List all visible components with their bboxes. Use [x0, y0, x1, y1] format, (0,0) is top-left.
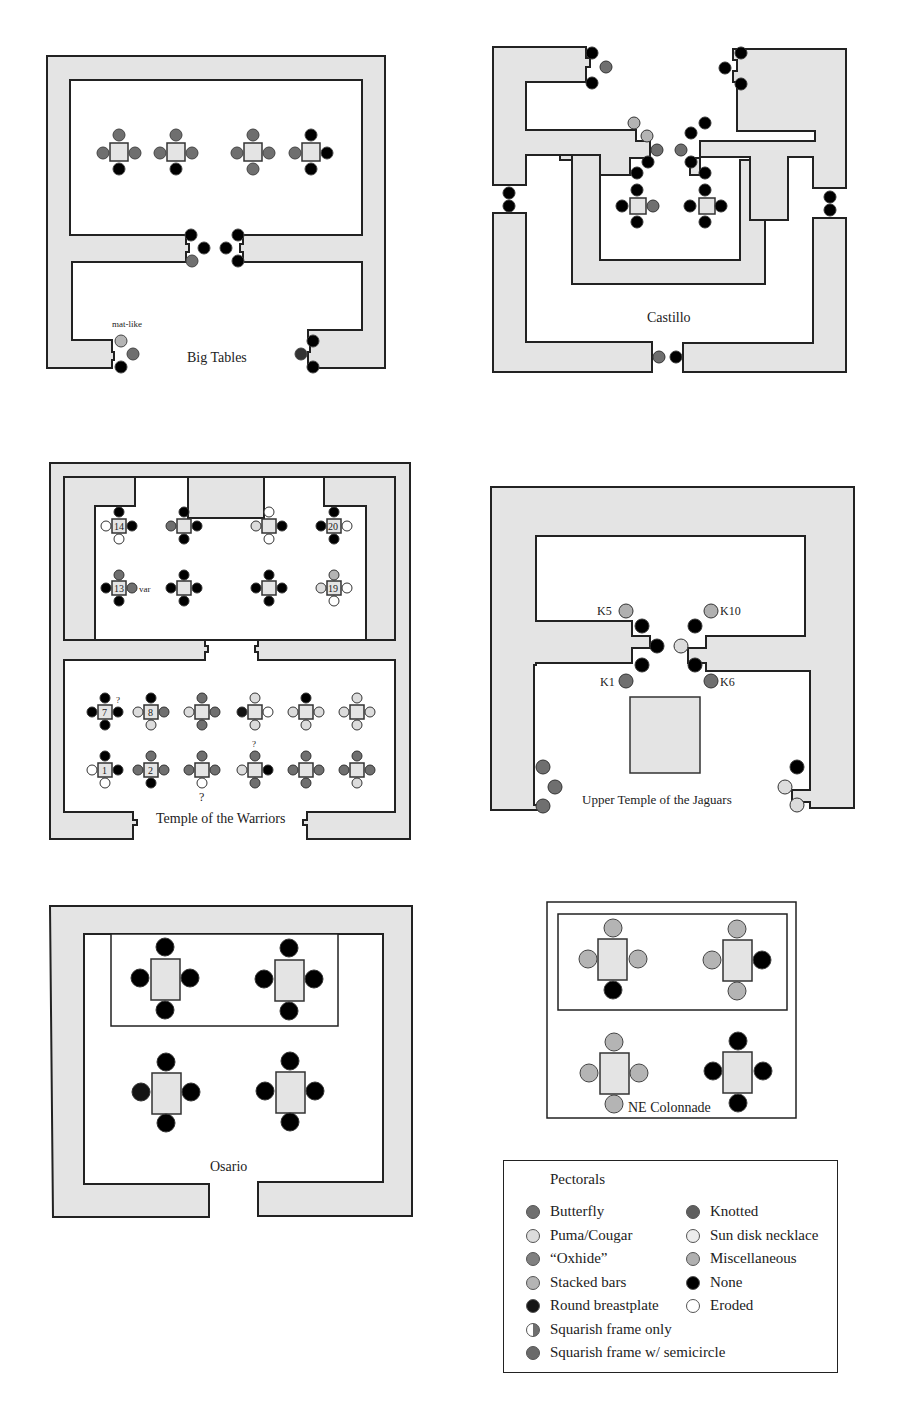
- squarish-semicircle-swatch-icon: [526, 1346, 540, 1360]
- k10-label: K10: [720, 604, 741, 618]
- question-mark: ?: [199, 790, 204, 804]
- big-tables-title: Big Tables: [187, 350, 247, 365]
- upper-temple-of-the-jaguars-title: Upper Temple of the Jaguars: [582, 792, 732, 807]
- osario-plan: Osario: [50, 906, 412, 1217]
- ne-colonnade-title: NE Colonnade: [628, 1100, 711, 1115]
- legend-title: Pectorals: [550, 1171, 605, 1188]
- misc-swatch-icon: [686, 1252, 700, 1266]
- column-number-20: 20: [328, 521, 338, 532]
- puma-swatch-icon: [526, 1229, 540, 1243]
- legend-item-squarish-frame-semicircle: Squarish frame w/ semicircle: [526, 1344, 725, 1361]
- legend-item-stacked-bars: Stacked bars: [526, 1274, 626, 1291]
- temple-of-the-warriors-plan: 14 20 13 19 7 8 1 2 var ? ? ? Temple of …: [50, 463, 410, 839]
- oxhide-swatch-icon: [526, 1252, 540, 1266]
- ne-colonnade-plan: NE Colonnade: [547, 902, 796, 1118]
- mat-like-annotation: mat-like: [112, 319, 142, 329]
- legend-item-miscellaneous: Miscellaneous: [686, 1250, 797, 1267]
- butterfly-swatch-icon: [526, 1205, 540, 1219]
- legend-item-sun-disk-necklace: Sun disk necklace: [686, 1227, 818, 1244]
- legend-item-none: None: [686, 1274, 743, 1291]
- legend-item-puma-cougar: Puma/Cougar: [526, 1227, 633, 1244]
- column-number-7: 7: [102, 707, 107, 718]
- squarish-frame-swatch-icon: [526, 1323, 540, 1337]
- big-tables-plan: mat-like Big Tables: [47, 56, 385, 373]
- stacked-bars-swatch-icon: [526, 1276, 540, 1290]
- osario-title: Osario: [210, 1159, 247, 1174]
- legend-item-oxhide: “Oxhide”: [526, 1250, 607, 1267]
- column-number-14: 14: [114, 521, 124, 532]
- column-number-13: 13: [114, 583, 124, 594]
- column-number-8: 8: [148, 707, 153, 718]
- knotted-swatch-icon: [686, 1205, 700, 1219]
- question-mark: ?: [252, 739, 256, 749]
- none-swatch-icon: [686, 1276, 700, 1290]
- var-annotation: var: [139, 584, 151, 594]
- legend-item-eroded: Eroded: [686, 1297, 753, 1314]
- legend-item-round-breastplate: Round breastplate: [526, 1297, 659, 1314]
- legend-item-butterfly: Butterfly: [526, 1203, 604, 1220]
- eroded-swatch-icon: [686, 1299, 700, 1313]
- upper-temple-of-the-jaguars-plan: K5 K10 K1 K6 Upper Temple of the Jaguars: [491, 487, 854, 813]
- castillo-plan: Castillo: [493, 47, 846, 372]
- column-number-19: 19: [328, 583, 338, 594]
- pectorals-legend: Pectorals Butterfly Puma/Cougar “Oxhide”…: [503, 1160, 838, 1373]
- sun-disk-swatch-icon: [686, 1229, 700, 1243]
- column-number-1: 1: [102, 765, 107, 776]
- k1-label: K1: [600, 675, 615, 689]
- k6-label: K6: [720, 675, 735, 689]
- castillo-title: Castillo: [647, 310, 691, 325]
- legend-item-knotted: Knotted: [686, 1203, 758, 1220]
- legend-item-squarish-frame-only: Squarish frame only: [526, 1321, 672, 1338]
- temple-of-the-warriors-title: Temple of the Warriors: [156, 811, 285, 826]
- column-number-2: 2: [148, 765, 153, 776]
- question-mark: ?: [116, 695, 120, 705]
- k5-label: K5: [597, 604, 612, 618]
- round-breastplate-swatch-icon: [526, 1299, 540, 1313]
